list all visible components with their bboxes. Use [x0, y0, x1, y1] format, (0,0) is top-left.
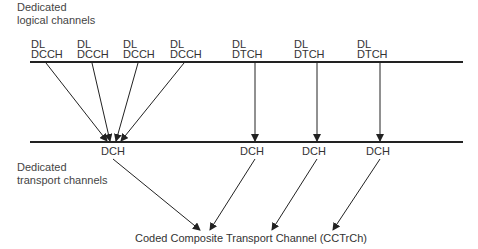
dch-arrow-1 [113, 159, 200, 230]
transport-channel-dch-3: DCH [302, 146, 326, 157]
transport-channels-label: Dedicated transport channels [17, 161, 108, 187]
channel-line2: DCCH [31, 49, 63, 59]
logical-channels-label: Dedicated logical channels [17, 1, 95, 27]
channel-line2: DTCH [232, 49, 263, 59]
dcch-arrow-1 [46, 63, 107, 141]
logical-channel-dcch-2: DL DCCH [77, 39, 109, 59]
channel-line2: DTCH [294, 49, 325, 59]
logical-channel-dcch-4: DL DCCH [170, 39, 202, 59]
logical-label-line1: Dedicated [17, 1, 95, 14]
dcch-arrow-2 [92, 63, 110, 141]
channel-line2: DCCH [123, 49, 155, 59]
logical-channel-dtch-3: DL DTCH [357, 39, 388, 59]
transport-label-line1: Dedicated [17, 161, 108, 174]
logical-channel-dtch-1: DL DTCH [232, 39, 263, 59]
logical-channel-dcch-1: DL DCCH [31, 39, 63, 59]
cctrch-label: Coded Composite Transport Channel (CCTrC… [135, 233, 367, 244]
transport-channel-dch-2: DCH [240, 146, 264, 157]
transport-channel-dch-4: DCH [366, 146, 390, 157]
transport-label-line2: transport channels [17, 174, 108, 187]
dcch-arrow-3 [116, 63, 138, 141]
channel-line2: DCCH [170, 49, 202, 59]
logical-channel-dcch-3: DL DCCH [123, 39, 155, 59]
channel-line2: DTCH [357, 49, 388, 59]
logical-label-line2: logical channels [17, 14, 95, 27]
dcch-arrow-4 [121, 63, 184, 141]
transport-channel-dch-1: DCH [101, 146, 125, 157]
dch-arrow-3 [272, 159, 317, 230]
channel-line2: DCCH [77, 49, 109, 59]
logical-channel-dtch-2: DL DTCH [294, 39, 325, 59]
dch-arrow-4 [333, 159, 380, 230]
dch-arrow-2 [210, 159, 255, 230]
